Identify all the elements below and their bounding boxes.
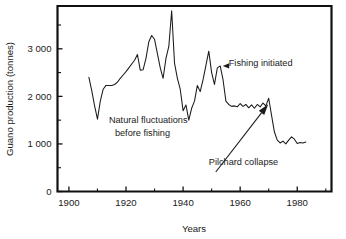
y-tick-label-1000: 1 000 — [27, 138, 51, 149]
y-axis-title: Guano production (tonnes) — [4, 42, 15, 156]
x-axis-title: Years — [182, 223, 206, 234]
x-tick-label-1940: 1940 — [172, 197, 193, 208]
annotation-label-pilchard-collapse: Pilchard collapse — [209, 157, 278, 167]
x-tick-label-1960: 1960 — [229, 197, 250, 208]
x-tick-label-1920: 1920 — [115, 197, 136, 208]
guano-production-line-chart: 19001920194019601980 01 0002 0003 000 Ye… — [0, 0, 346, 239]
x-tick-label-1980: 1980 — [287, 197, 308, 208]
annotation-label-fishing-initiated: Fishing initiated — [229, 58, 293, 68]
y-tick-label-2000: 2 000 — [27, 91, 51, 102]
annotation-label-natural-fluctuations-line2: before fishing — [115, 128, 170, 138]
y-tick-label-3000: 3 000 — [27, 43, 51, 54]
x-tick-label-1900: 1900 — [58, 197, 79, 208]
annotation-fishing-initiated: Fishing initiated — [223, 58, 293, 68]
y-axis-tick-labels: 01 0002 0003 000 — [27, 43, 51, 197]
annotation-label-natural-fluctuations-line1: Natural fluctuations — [109, 115, 188, 125]
x-axis-tick-labels: 19001920194019601980 — [58, 197, 308, 208]
annotation-natural-fluctuations: Natural fluctuations before fishing — [109, 115, 188, 138]
chart-figure: 19001920194019601980 01 0002 0003 000 Ye… — [0, 0, 346, 239]
annotation-pilchard-collapse: Pilchard collapse — [209, 104, 278, 172]
y-tick-label-0: 0 — [46, 186, 51, 197]
